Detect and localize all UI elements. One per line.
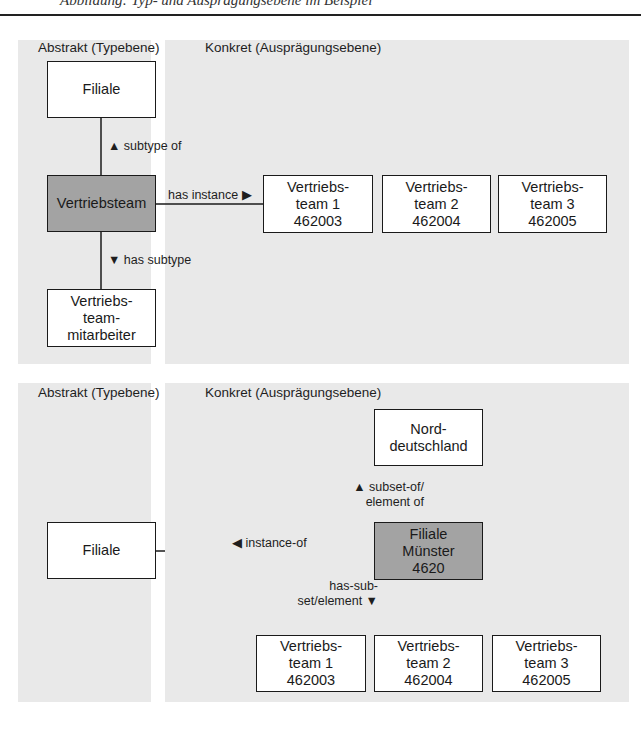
d1-node-filiale-label: Filiale [83,81,121,98]
d2-node-filiale-label: Filiale [83,542,121,559]
d1-node-vertriebsteam: Vertriebsteam [47,175,156,232]
d1-node-team1-label: Vertriebs- team 1 462003 [287,179,349,230]
d1-node-team2: Vertriebs- team 2 462004 [382,175,491,233]
d2-edge-subset-of: ▲ subset-of/ element of [336,480,424,510]
d2-edge-has-subset: has-sub- set/element ▼ [296,579,378,609]
d2-node-norddeutschland: Nord- deutschland [374,409,483,466]
d2-node-muenster: Filiale Münster 4620 [374,522,483,580]
d2-node-team2: Vertriebs- team 2 462004 [374,635,483,692]
d1-edge-subtype-of: ▲ subtype of [108,139,182,154]
d1-node-team3: Vertriebs- team 3 462005 [498,175,607,233]
d2-node-team3-label: Vertriebs- team 3 462005 [515,638,577,689]
d2-node-team2-label: Vertriebs- team 2 462004 [397,638,459,689]
d2-node-filiale: Filiale [47,522,156,579]
d1-edge-has-instance: has instance ▶ [168,188,252,203]
d1-edge-has-subtype: ▼ has subtype [108,253,191,268]
d1-node-team2-label: Vertriebs- team 2 462004 [405,179,467,230]
d2-abstract-title: Abstrakt (Typebene) [38,385,160,400]
d1-node-mitarbeiter: Vertriebs- team- mitarbeiter [47,289,156,347]
d2-node-team1-label: Vertriebs- team 1 462003 [280,638,342,689]
d2-node-team1: Vertriebs- team 1 462003 [256,635,366,692]
d1-node-vertriebsteam-label: Vertriebsteam [57,195,146,212]
d2-node-team3: Vertriebs- team 3 462005 [492,635,601,692]
d2-node-muenster-label: Filiale Münster 4620 [402,526,454,577]
d2-node-norddeutschland-label: Nord- deutschland [389,421,467,455]
d1-node-team1: Vertriebs- team 1 462003 [263,175,373,233]
d1-node-filiale: Filiale [47,61,156,118]
d1-node-team3-label: Vertriebs- team 3 462005 [521,179,583,230]
d1-node-mitarbeiter-label: Vertriebs- team- mitarbeiter [67,293,136,344]
d2-concrete-title: Konkret (Ausprägungsebene) [205,385,381,400]
d2-edge-instance-of: ◀ instance-of [232,536,307,551]
